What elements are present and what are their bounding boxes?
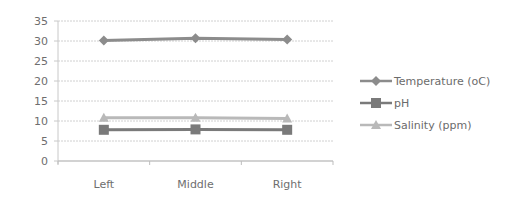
square-icon: [360, 97, 392, 109]
square-marker: [191, 124, 201, 134]
legend: Temperature (oC)pHSalinity (ppm): [360, 70, 490, 136]
diamond-icon: [360, 75, 392, 87]
diamond-marker: [371, 76, 381, 86]
y-tick-label: 30: [34, 35, 48, 48]
legend-label: pH: [394, 97, 409, 110]
legend-item: Temperature (oC): [360, 70, 490, 92]
y-tick-label: 25: [34, 55, 48, 68]
legend-label: Temperature (oC): [394, 75, 490, 88]
y-tick-label: 10: [34, 115, 48, 128]
y-tick-label: 20: [34, 75, 48, 88]
triangle-icon: [360, 119, 392, 131]
diamond-marker: [282, 34, 292, 44]
legend-item: Salinity (ppm): [360, 114, 490, 136]
square-marker: [282, 125, 292, 135]
diamond-marker: [99, 36, 109, 46]
x-tick-label: Right: [273, 178, 303, 191]
legend-item: pH: [360, 92, 490, 114]
series-temperature: [99, 33, 292, 45]
x-tick-label: Left: [93, 178, 114, 191]
square-marker: [371, 98, 381, 108]
y-tick-label: 5: [41, 135, 48, 148]
y-tick-label: 0: [41, 155, 48, 168]
x-tick-label: Middle: [177, 178, 214, 191]
series-ph: [99, 124, 292, 134]
data-series: [99, 33, 292, 135]
y-axis: 05101520253035: [34, 15, 58, 168]
diamond-marker: [191, 33, 201, 43]
square-marker: [99, 125, 109, 135]
y-tick-label: 15: [34, 95, 48, 108]
x-axis: LeftMiddleRight: [58, 161, 333, 191]
legend-label: Salinity (ppm): [394, 119, 471, 132]
y-tick-label: 35: [34, 15, 48, 28]
